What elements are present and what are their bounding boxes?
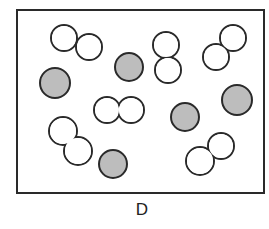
single-atom: [171, 103, 199, 131]
molecule-atom-fill: [95, 98, 119, 122]
molecule-atom-fill: [154, 33, 178, 57]
molecule-atom-fill: [221, 26, 245, 50]
single-atom: [99, 150, 127, 178]
single-atom: [115, 53, 143, 81]
molecule-atom-fill: [52, 26, 76, 50]
diatomic-molecule: [186, 133, 234, 175]
diatomic-molecule: [94, 97, 144, 123]
panel-label: D: [0, 200, 269, 220]
molecule-atom-fill: [65, 138, 91, 164]
diatomic-molecule: [203, 25, 246, 70]
diatomic-molecule: [51, 25, 102, 60]
molecule-atom-fill: [119, 98, 143, 122]
diatomic-molecule: [49, 117, 92, 165]
diatomic-molecules: [49, 25, 246, 175]
single-atom: [222, 85, 252, 115]
molecule-atom-fill: [204, 45, 228, 69]
molecule-atom-fill: [77, 35, 101, 59]
diatomic-molecule: [153, 32, 181, 83]
molecule-atom-fill: [209, 134, 233, 158]
particle-diagram: [0, 0, 269, 229]
single-atom: [40, 68, 70, 98]
molecule-atom-fill: [187, 148, 213, 174]
molecule-atom-fill: [156, 58, 180, 82]
